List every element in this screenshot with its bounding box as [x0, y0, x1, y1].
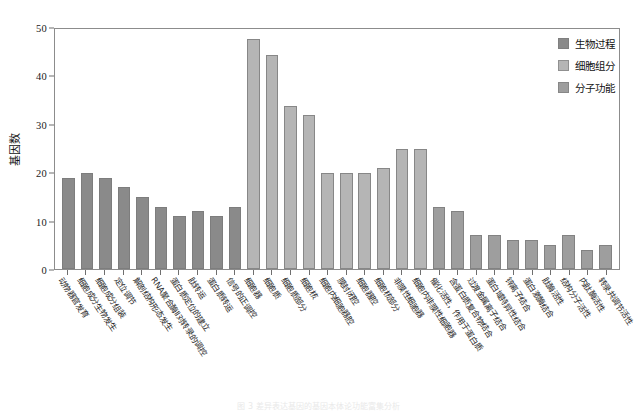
- x-axis-label-slot: 细胞器: [244, 272, 263, 392]
- bar[interactable]: [414, 149, 427, 269]
- bar-slot: [244, 29, 263, 269]
- x-axis-label-slot: 信号的正调控: [225, 272, 244, 392]
- x-axis-label-slot: 细胞成分生物发生: [77, 272, 96, 392]
- bars-layer: [55, 29, 619, 269]
- x-axis-label-slot: 肽转运: [188, 272, 207, 392]
- x-axis-label-slot: 细胞核: [300, 272, 319, 392]
- bar[interactable]: [525, 240, 538, 269]
- x-axis-label-slot: 蛋白质转运: [207, 272, 226, 392]
- legend-item[interactable]: 细胞组分: [558, 58, 615, 73]
- x-axis-label-slot: 肽酶活性: [541, 272, 560, 392]
- bar-slot: [96, 29, 115, 269]
- x-axis-label-slot: 蛋白激酶结合: [523, 272, 542, 392]
- bar[interactable]: [81, 173, 94, 269]
- bar[interactable]: [173, 216, 186, 269]
- bar-slot: [448, 29, 467, 269]
- x-axis-label-slot: 结构分子活性: [560, 272, 579, 392]
- bar[interactable]: [247, 39, 260, 269]
- bar-slot: [485, 29, 504, 269]
- legend-item[interactable]: 分子功能: [558, 80, 615, 95]
- y-axis-tick-label: 30: [36, 119, 47, 130]
- x-axis-label-slot: 细胞器腔: [356, 272, 375, 392]
- legend-label: 生物过程: [575, 36, 615, 51]
- bar[interactable]: [99, 178, 112, 269]
- x-axis-label-slot: 催化活性，作用于蛋白质: [430, 272, 449, 392]
- y-axis-tick-label: 40: [36, 71, 47, 82]
- bar-slot: [393, 29, 412, 269]
- x-axis-label-slot: 动物器官发育: [58, 272, 77, 392]
- y-axis-title-wrap: 基因数: [22, 28, 23, 270]
- bar[interactable]: [266, 55, 279, 269]
- bar-slot: [337, 29, 356, 269]
- bar-slot: [356, 29, 375, 269]
- bar-slot: [318, 29, 337, 269]
- bar-slot: [522, 29, 541, 269]
- bar[interactable]: [507, 240, 520, 269]
- legend-swatch-icon: [558, 60, 569, 71]
- bar-slot: [504, 29, 523, 269]
- x-axis-label-slot: 转录共调节活性: [597, 272, 616, 392]
- legend-item[interactable]: 生物过程: [558, 36, 615, 51]
- bar[interactable]: [284, 106, 297, 269]
- bar-slot: [59, 29, 78, 269]
- bar[interactable]: [451, 211, 464, 269]
- bar-slot: [300, 29, 319, 269]
- bar[interactable]: [488, 235, 501, 269]
- bar[interactable]: [396, 149, 409, 269]
- x-axis-label-slot: 细胞内非膜性细胞器: [411, 272, 430, 392]
- bar-slot: [115, 29, 134, 269]
- x-axis-label: 转录共调节活性: [596, 274, 637, 327]
- bar[interactable]: [321, 173, 334, 269]
- bar[interactable]: [562, 235, 575, 269]
- bar[interactable]: [210, 216, 223, 269]
- bar[interactable]: [118, 187, 131, 269]
- bar[interactable]: [340, 173, 353, 269]
- bar-slot: [207, 29, 226, 269]
- bar[interactable]: [136, 197, 149, 269]
- bar[interactable]: [544, 245, 557, 269]
- x-axis-label-slot: 解剖结构形态发生: [132, 272, 151, 392]
- x-axis-label-slot: 细胞质: [263, 272, 282, 392]
- bar[interactable]: [303, 115, 316, 269]
- x-axis-label-slot: 蛋白质定位的建立: [170, 272, 189, 392]
- bar-slot: [411, 29, 430, 269]
- plot-area: [54, 28, 620, 270]
- bar[interactable]: [470, 235, 483, 269]
- x-axis-label-slot: 细胞成分组装: [95, 272, 114, 392]
- bar[interactable]: [62, 178, 75, 269]
- x-axis-label-slot: 细胞质部分: [281, 272, 300, 392]
- legend-swatch-icon: [558, 82, 569, 93]
- bar[interactable]: [192, 211, 205, 269]
- legend-label: 分子功能: [575, 80, 615, 95]
- bar-slot: [170, 29, 189, 269]
- x-axis-label-slot: 细胞内细胞器腔: [318, 272, 337, 392]
- legend-label: 细胞组分: [575, 58, 615, 73]
- bar[interactable]: [358, 173, 371, 269]
- bar-slot: [78, 29, 97, 269]
- bar[interactable]: [599, 245, 612, 269]
- x-axis-labels: 动物器官发育细胞成分生物发生细胞成分组装定位调节解剖结构形态发生RNA聚合酶Ⅱ对…: [54, 272, 620, 392]
- bar-slot: [281, 29, 300, 269]
- x-axis-label-slot: 膜封闭腔: [337, 272, 356, 392]
- bar[interactable]: [433, 207, 446, 269]
- bar[interactable]: [377, 168, 390, 269]
- y-axis-tick-label: 20: [36, 168, 47, 179]
- bar-slot: [430, 29, 449, 269]
- bar-slot: [263, 29, 282, 269]
- bar[interactable]: [155, 207, 168, 269]
- y-axis-tick-label: 50: [36, 23, 47, 34]
- legend: 生物过程细胞组分分子功能: [558, 36, 615, 95]
- x-axis-label-slot: 蛋白域特异性结合: [486, 272, 505, 392]
- bar[interactable]: [581, 250, 594, 269]
- x-axis-label-slot: 锌离子结合: [504, 272, 523, 392]
- bar[interactable]: [229, 207, 242, 269]
- figure-caption: 图 3 差异表达基因的基因本体论功能富集分析: [0, 400, 637, 411]
- x-axis-label-slot: 内肽酶活性: [579, 272, 598, 392]
- x-axis-label-slot: 含蛋白质复合物结合: [448, 272, 467, 392]
- y-axis-tick-label: 0: [42, 265, 47, 276]
- bar-slot: [226, 29, 245, 269]
- bar-slot: [133, 29, 152, 269]
- y-axis-tick-label: 10: [36, 216, 47, 227]
- bar-slot: [541, 29, 560, 269]
